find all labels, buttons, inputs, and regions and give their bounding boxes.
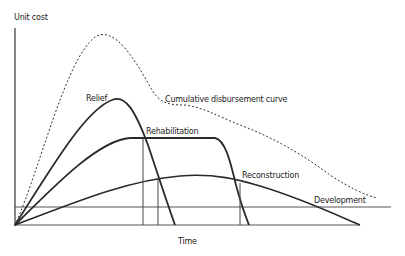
- y-axis-label: Unit cost: [14, 13, 48, 22]
- x-axis-label: Time: [178, 237, 197, 246]
- reconstruction-label: Reconstruction: [242, 171, 299, 180]
- diagram-canvas: Unit cost Time Relief Rehabilitation Cum…: [0, 0, 405, 256]
- development-label: Development: [314, 196, 366, 205]
- diagram-svg: [0, 0, 405, 256]
- relief-label: Relief: [86, 94, 107, 103]
- rehabilitation-label: Rehabilitation: [146, 127, 198, 136]
- cumulative-label: Cumulative disbursement curve: [165, 95, 287, 104]
- relief-curve: [15, 99, 175, 225]
- reconstruction-curve: [15, 175, 360, 225]
